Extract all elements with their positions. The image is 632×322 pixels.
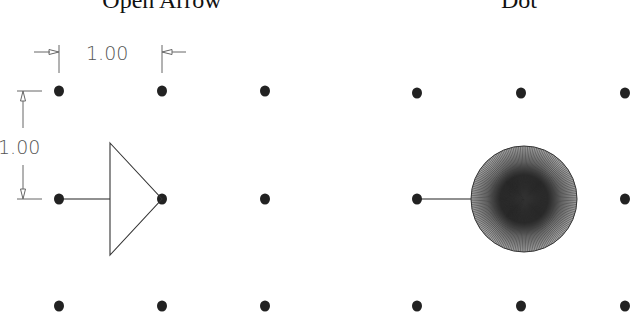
dimension-arrow-icon [49,50,59,55]
vertical-dimension-label: 1.00 [0,136,40,158]
dimension-arrow-icon [162,50,172,55]
open-arrow-icon [59,143,162,255]
grid-dot [620,88,630,99]
panel-title-open-arrow: Open Arrow [102,0,222,13]
grid-dot [260,301,270,312]
panel-title-dot: Dot [501,0,537,13]
grid-dot [157,86,167,97]
grid-dot [54,301,64,312]
horizontal-dimension-label: 1.00 [86,42,128,64]
grid-dot [54,86,64,97]
grid-dot [412,88,422,99]
arrowhead-diagram: Open Arrow Dot 1.00 1.00 [0,0,632,322]
grid-dot [157,301,167,312]
grid-dot [260,86,270,97]
dimension-arrow-icon [21,189,26,199]
grid-dot [620,301,630,312]
open-arrowhead-triangle [110,143,162,255]
grid-dot [260,194,270,205]
filled-dot-arrowhead [471,146,577,252]
grid-dot [516,88,526,99]
grid-dot [412,301,422,312]
grid-dot [620,194,630,205]
dimension-arrow-icon [21,91,26,101]
grid-dot [516,301,526,312]
dot-arrow-icon [417,146,577,252]
